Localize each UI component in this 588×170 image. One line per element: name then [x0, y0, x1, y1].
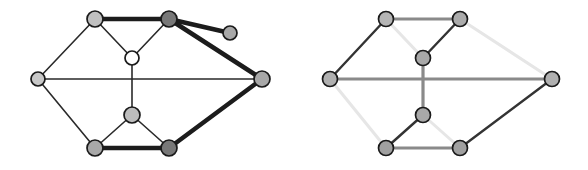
top-right-node	[453, 12, 468, 27]
pendant-node	[223, 26, 237, 40]
left-node	[31, 72, 45, 86]
right-graph	[323, 12, 560, 156]
graph-edge-lf-bl	[38, 79, 95, 148]
graph-edge-br-rt	[460, 79, 552, 148]
bottom-left-node	[87, 140, 103, 156]
graph-edge-lf-bl	[330, 79, 386, 148]
bottom-left-node	[379, 141, 394, 156]
left-graph	[31, 11, 270, 156]
left-graph-nodes	[31, 11, 270, 156]
top-left-node	[87, 11, 103, 27]
graph-edge-tl-lf	[38, 19, 95, 79]
right-graph-edges	[330, 19, 552, 148]
left-node	[323, 72, 338, 87]
bottom-right-node	[453, 141, 468, 156]
right-graph-nodes	[323, 12, 560, 156]
graph-edge-tl-lf	[330, 19, 386, 79]
right-node	[254, 71, 270, 87]
top-right-node	[161, 11, 177, 27]
graph-edge-tr-rt	[460, 19, 552, 79]
upper-center-node	[416, 51, 431, 66]
graph-figure	[0, 0, 588, 170]
top-left-node	[379, 12, 394, 27]
right-node	[545, 72, 560, 87]
lower-center-node	[124, 107, 140, 123]
upper-center-node	[125, 51, 139, 65]
figure-canvas	[0, 0, 588, 170]
graph-edge-rt-br	[169, 79, 262, 148]
lower-center-node	[416, 108, 431, 123]
bottom-right-node	[161, 140, 177, 156]
